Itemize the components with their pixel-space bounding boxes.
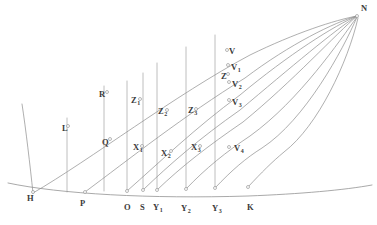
node-V1 bbox=[227, 64, 230, 67]
point-label-N: N bbox=[361, 4, 367, 13]
point-label-text: Y bbox=[212, 203, 218, 213]
point-label-text: Q bbox=[102, 137, 109, 147]
node-N bbox=[356, 15, 359, 18]
node-V3 bbox=[228, 99, 231, 102]
point-label-V2: V2 bbox=[232, 80, 242, 89]
point-label-subscript: 1 bbox=[140, 147, 143, 153]
point-label-H: H bbox=[27, 194, 34, 203]
point-label-text: P bbox=[80, 198, 85, 208]
curve-S-N bbox=[143, 16, 357, 190]
point-label-V: V bbox=[229, 47, 235, 56]
point-label-text: Y bbox=[153, 202, 159, 212]
node-V4 bbox=[228, 146, 231, 149]
node-Y2 bbox=[185, 188, 188, 191]
point-label-subscript: 3 bbox=[194, 110, 197, 116]
point-label-text: Y bbox=[181, 203, 187, 213]
point-label-text: V bbox=[232, 79, 238, 89]
curve-P-N bbox=[85, 16, 357, 192]
point-label-X3: X3 bbox=[191, 143, 201, 152]
curve-left-rising bbox=[22, 104, 33, 193]
node-K bbox=[247, 186, 250, 189]
point-label-text: Z bbox=[221, 71, 227, 81]
point-label-text: R bbox=[99, 89, 105, 99]
point-label-text: Z bbox=[188, 105, 194, 115]
point-label-text: X bbox=[161, 148, 167, 158]
point-label-subscript: 1 bbox=[238, 67, 241, 73]
point-label-S: S bbox=[140, 203, 145, 212]
point-label-Z2: Z2 bbox=[158, 107, 167, 116]
point-label-Y1: Y1 bbox=[153, 203, 163, 212]
point-label-text: Z bbox=[131, 95, 137, 105]
point-label-Z3: Z3 bbox=[188, 106, 197, 115]
point-label-O: O bbox=[124, 203, 131, 212]
point-label-subscript: 3 bbox=[219, 208, 222, 214]
point-label-text: S bbox=[140, 202, 145, 212]
point-label-subscript: 3 bbox=[198, 147, 201, 153]
node-markers-group bbox=[32, 15, 359, 194]
node-O bbox=[126, 190, 129, 193]
point-label-V3: V3 bbox=[232, 98, 242, 107]
point-label-subscript: 1 bbox=[160, 207, 163, 213]
point-label-text: V bbox=[232, 97, 238, 107]
point-label-Z: Z bbox=[221, 72, 227, 81]
node-Y1 bbox=[156, 189, 159, 192]
node-Y3 bbox=[214, 187, 217, 190]
node-V2 bbox=[228, 81, 231, 84]
point-label-text: V bbox=[229, 46, 235, 56]
point-label-Y2: Y2 bbox=[181, 204, 191, 213]
point-label-R: R bbox=[99, 90, 105, 99]
point-label-text: O bbox=[124, 202, 131, 212]
point-label-text: V bbox=[231, 62, 237, 72]
curve-O-N bbox=[127, 16, 357, 191]
point-label-text: N bbox=[361, 3, 367, 13]
point-label-subscript: 4 bbox=[241, 148, 244, 154]
point-label-V4: V4 bbox=[234, 144, 244, 153]
point-label-text: X bbox=[191, 142, 197, 152]
node-R bbox=[106, 91, 109, 94]
point-label-P: P bbox=[80, 199, 85, 208]
point-label-X1: X1 bbox=[133, 143, 143, 152]
point-label-subscript: 3 bbox=[239, 102, 242, 108]
node-P bbox=[84, 191, 87, 194]
point-label-subscript: 2 bbox=[188, 208, 191, 214]
point-label-text: Z bbox=[158, 106, 164, 116]
point-label-subscript: 2 bbox=[168, 153, 171, 159]
curve-K-N bbox=[248, 18, 358, 187]
point-label-text: H bbox=[27, 193, 34, 203]
point-label-X2: X2 bbox=[161, 149, 171, 158]
geometric-diagram: NVV1ZV2V3RZ1Z2Z3LQX1X2X3V4HPOSY1Y2Y3K bbox=[0, 0, 377, 225]
point-label-Q: Q bbox=[102, 138, 109, 147]
point-label-K: K bbox=[247, 203, 254, 212]
curve-H-N bbox=[33, 16, 357, 193]
point-label-subscript: 1 bbox=[137, 100, 140, 106]
node-S bbox=[142, 189, 145, 192]
point-label-subscript: 2 bbox=[239, 84, 242, 90]
point-label-text: X bbox=[133, 142, 139, 152]
point-label-text: V bbox=[234, 143, 240, 153]
point-label-Y3: Y3 bbox=[212, 204, 222, 213]
point-label-L: L bbox=[62, 124, 68, 133]
point-label-text: L bbox=[62, 123, 68, 133]
point-label-Z1: Z1 bbox=[131, 96, 140, 105]
curve-Y1-N bbox=[157, 16, 357, 190]
point-label-subscript: 2 bbox=[164, 111, 167, 117]
point-label-V1: V1 bbox=[231, 63, 241, 72]
point-label-text: K bbox=[247, 202, 254, 212]
